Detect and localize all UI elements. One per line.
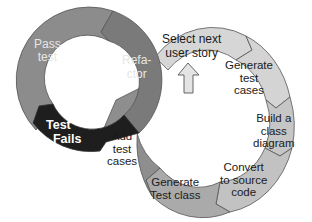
label-generate-test-cases: Generate test cases [225, 59, 273, 97]
label-refactor: Refa- ctor [122, 53, 151, 81]
label-build-class-diagram: Build a class diagram [253, 112, 295, 150]
segment-pass-test-shape [16, 7, 113, 130]
label-select-next-user-story: Select next user story [162, 32, 221, 60]
label-convert-to-source-code: Convert to source code [220, 161, 267, 199]
up-arrow-icon [178, 63, 199, 93]
label-generate-test-class: Generate Test class [150, 176, 201, 201]
label-add-test-cases: Add test cases [107, 130, 137, 168]
label-pass-test: Pass test [34, 38, 61, 64]
label-test-fails: Test Fails [46, 118, 81, 146]
